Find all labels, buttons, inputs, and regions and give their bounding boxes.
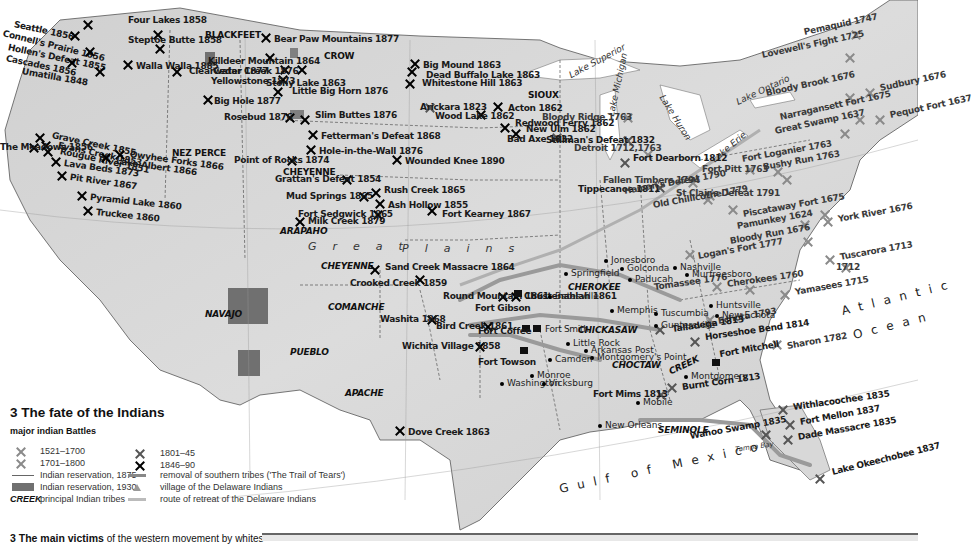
battle-marker-icon	[95, 67, 105, 77]
battle-marker-icon	[427, 206, 437, 216]
battle-label: Crooked Creek 1859	[350, 278, 447, 288]
fort-smith-icon	[533, 325, 541, 332]
battle-marker-icon	[300, 115, 310, 125]
battle-marker-icon	[875, 115, 885, 125]
battle-label: Sand Creek Massacre 1864	[385, 262, 515, 272]
battle-label: Wounded Knee 1890	[405, 156, 504, 166]
battle-label: Big Mound 1863	[423, 60, 501, 70]
tribe-sioux: SIOUX	[528, 90, 559, 100]
reservation-1875-line-icon	[12, 475, 34, 476]
tribe-navajo: NAVAJO	[205, 309, 242, 319]
legend: 3 The fate of the Indians major indian B…	[10, 405, 330, 440]
battle-marker-icon	[57, 171, 67, 181]
town-label: Huntsville	[709, 300, 761, 310]
battle-label: Grattan's Defeat 1854	[275, 174, 381, 184]
battle-marker-icon	[840, 129, 850, 139]
town-label: Golconda	[620, 263, 669, 273]
battle-marker-icon	[203, 95, 213, 105]
battle-marker-icon	[261, 33, 271, 43]
battle-marker-icon	[761, 430, 771, 440]
battle-marker-icon	[77, 191, 87, 201]
battle-marker-icon	[745, 285, 755, 295]
legend-item-label: Indian reservation, 1875	[40, 470, 137, 480]
legend-item-label: principal Indian tribes	[40, 494, 125, 504]
battle-marker-icon	[728, 205, 738, 215]
legend-era-label: 1846–90	[160, 460, 195, 470]
town-label: Paducah	[628, 274, 673, 284]
battle-marker-icon	[667, 383, 677, 393]
trail-of-tears-arrow-icon	[128, 474, 146, 477]
legend-item-label: route of retreat of the Delaware Indians	[160, 494, 316, 504]
battle-label: Fort Kearney 1867	[442, 209, 531, 219]
legend-item-label: removal of southern tribes ('The Trail o…	[160, 470, 345, 480]
battle-marker-icon	[295, 217, 305, 227]
battle-marker-icon	[306, 145, 316, 155]
battle-label: Whitestone Hill 1863	[422, 78, 522, 88]
battle-label: Detroit 1712,1763	[574, 143, 661, 153]
caption-bold: 3 The main victims	[10, 532, 104, 544]
battle-marker-icon	[405, 79, 415, 89]
battle-label: Big Hole 1877	[214, 96, 281, 106]
battle-marker-icon	[620, 158, 630, 168]
battle-label: Milk Creek 1879	[308, 216, 385, 226]
battle-marker-icon	[782, 175, 792, 185]
town-label: New Echota	[715, 310, 775, 320]
town-label: New Orleans	[598, 420, 662, 430]
town-label: Camden	[548, 354, 593, 364]
battle-1521-1700-icon	[16, 447, 26, 457]
battle-marker-icon	[273, 87, 283, 97]
battle-label: Fetterman's Defeat 1868	[321, 131, 440, 141]
battle-label: Wichita Village 1858	[402, 341, 500, 351]
delaware-retreat-arrow-icon	[128, 498, 146, 501]
battle-marker-icon	[690, 337, 700, 347]
legend-title: 3 The fate of the Indians	[10, 405, 330, 420]
battle-label: Slim Buttes 1876	[315, 110, 397, 120]
town-label: Memphis	[610, 305, 658, 315]
battle-marker-icon	[685, 250, 695, 260]
town-label: Mobile	[636, 397, 673, 407]
battle-marker-icon	[500, 123, 510, 133]
fort-towson-icon	[520, 347, 528, 354]
tribe-pueblo: PUEBLO	[290, 347, 329, 357]
town-label: Springfield	[564, 268, 619, 278]
battle-label: Steptoe Butte 1858	[128, 35, 222, 45]
battle-1801-45-icon	[135, 449, 145, 459]
tribe-comanche: COMANCHE	[328, 302, 384, 312]
battle-marker-icon	[172, 67, 182, 77]
town-label: Tuscumbia	[654, 308, 709, 318]
battle-label: Dove Creek 1863	[408, 427, 490, 437]
fort-label: Fort Smith	[545, 324, 589, 334]
tribe-cheyenne-south: CHEYENNE	[321, 261, 374, 271]
battle-marker-icon	[308, 130, 318, 140]
battle-label: Fort Pitt 1763	[702, 164, 768, 174]
battle-marker-icon	[803, 237, 813, 247]
battle-marker-icon	[83, 206, 93, 216]
battle-marker-icon	[392, 155, 402, 165]
battle-label: Bloody Ridge 1763	[542, 112, 632, 122]
battle-label: Fort Dearborn 1812	[633, 153, 727, 163]
battle-label: Point of Rocks 1874	[234, 155, 329, 165]
caption-main-victims: 3 The main victims of the western moveme…	[10, 532, 263, 544]
battle-label: 1712	[836, 262, 860, 272]
town-label: Montgomery's Point	[590, 352, 686, 362]
battle-marker-icon	[297, 65, 307, 75]
battle-marker-icon	[407, 67, 417, 77]
fort-label: Fort Gibson	[475, 303, 530, 313]
battle-marker-icon	[825, 255, 835, 265]
legend-era-label: 1701–1800	[40, 458, 85, 468]
battle-marker-icon	[371, 188, 381, 198]
battle-marker-icon	[85, 47, 95, 57]
battle-marker-icon	[155, 44, 165, 54]
inset-map-frame	[262, 533, 918, 541]
town-label: Vicksburg	[542, 378, 593, 388]
battle-marker-icon	[123, 60, 133, 70]
tribe-apache: APACHE	[345, 388, 384, 398]
battle-marker-icon	[375, 199, 385, 209]
town-label: Montgomery	[684, 371, 748, 381]
battle-marker-icon	[815, 474, 825, 484]
battle-marker-icon	[101, 153, 111, 163]
fort-mitchell-icon	[712, 359, 720, 366]
battle-marker-icon	[493, 102, 503, 112]
legend-item-label: Indian reservation, 1930	[40, 482, 137, 492]
battle-label: Rush Creek 1865	[384, 185, 465, 195]
